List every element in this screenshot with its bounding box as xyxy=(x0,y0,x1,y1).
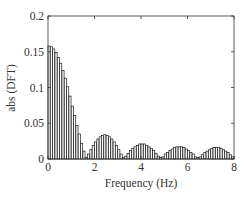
bar xyxy=(183,148,185,159)
bar xyxy=(132,148,134,159)
bar xyxy=(104,135,106,159)
bar xyxy=(50,47,52,159)
dft-magnitude-chart: 02468 00.050.10.150.2 Frequency (Hz) abs… xyxy=(0,0,245,199)
y-tick-labels: 00.050.10.150.2 xyxy=(24,10,44,165)
bar xyxy=(169,150,171,159)
bar xyxy=(215,148,217,159)
bar xyxy=(108,137,110,159)
bar xyxy=(78,134,80,159)
bar xyxy=(92,145,94,159)
bar xyxy=(204,153,206,159)
y-tick-label: 0.15 xyxy=(24,46,44,58)
bar xyxy=(101,135,103,159)
x-tick-label: 8 xyxy=(231,161,237,173)
bar xyxy=(88,154,90,159)
bar xyxy=(148,147,150,159)
bar xyxy=(190,153,192,159)
bar xyxy=(71,106,73,159)
bar xyxy=(74,115,76,159)
bar xyxy=(181,147,183,159)
bar xyxy=(106,135,108,159)
bar xyxy=(118,150,120,159)
bar xyxy=(225,151,227,159)
bar xyxy=(76,125,78,159)
x-tick-label: 4 xyxy=(138,161,144,173)
bar xyxy=(134,147,136,159)
bar-series xyxy=(48,46,234,159)
bar xyxy=(62,70,64,159)
bar xyxy=(113,142,115,159)
x-tick-label: 6 xyxy=(185,161,191,173)
bar xyxy=(146,145,148,159)
bar xyxy=(67,87,69,159)
y-axis-label: abs (DFT) xyxy=(5,64,18,112)
bar xyxy=(81,143,83,159)
bar xyxy=(220,148,222,159)
bar xyxy=(64,78,66,159)
bar xyxy=(167,153,169,159)
bar xyxy=(139,144,141,159)
x-tick-label: 2 xyxy=(92,161,98,173)
bar xyxy=(213,148,215,159)
bar xyxy=(227,153,229,159)
bar xyxy=(60,63,62,159)
bar xyxy=(99,137,101,159)
x-axis-label: Frequency (Hz) xyxy=(105,177,178,190)
x-tick-labels: 02468 xyxy=(45,161,237,173)
bar xyxy=(164,154,166,159)
bar xyxy=(129,150,131,159)
bar xyxy=(57,57,59,159)
bar xyxy=(208,150,210,159)
x-tick-label: 0 xyxy=(45,161,51,173)
y-tick-label: 0.05 xyxy=(24,117,44,129)
bar xyxy=(83,151,85,159)
bar xyxy=(53,49,55,159)
bar xyxy=(55,52,57,159)
bar xyxy=(185,149,187,159)
bar xyxy=(69,96,71,159)
bar xyxy=(201,155,203,159)
bar xyxy=(125,156,127,159)
bar xyxy=(157,156,159,159)
bar xyxy=(174,148,176,159)
bar xyxy=(90,150,92,159)
bar xyxy=(136,145,138,159)
bar xyxy=(150,148,152,159)
bar xyxy=(127,153,129,159)
bar xyxy=(192,154,194,159)
y-tick-label: 0 xyxy=(38,153,44,165)
bar xyxy=(97,139,99,159)
bar xyxy=(218,148,220,159)
bar xyxy=(115,145,117,159)
bar xyxy=(171,149,173,159)
bar xyxy=(211,148,213,159)
bar xyxy=(143,144,145,159)
bar xyxy=(111,139,113,159)
bar xyxy=(206,151,208,159)
bar xyxy=(222,150,224,159)
bar xyxy=(153,150,155,159)
y-tick-label: 0.2 xyxy=(30,10,45,22)
bar xyxy=(176,147,178,159)
bar xyxy=(178,147,180,159)
bar xyxy=(229,155,231,159)
y-tick-label: 0.1 xyxy=(30,82,45,94)
bar xyxy=(155,153,157,159)
bar xyxy=(120,154,122,159)
